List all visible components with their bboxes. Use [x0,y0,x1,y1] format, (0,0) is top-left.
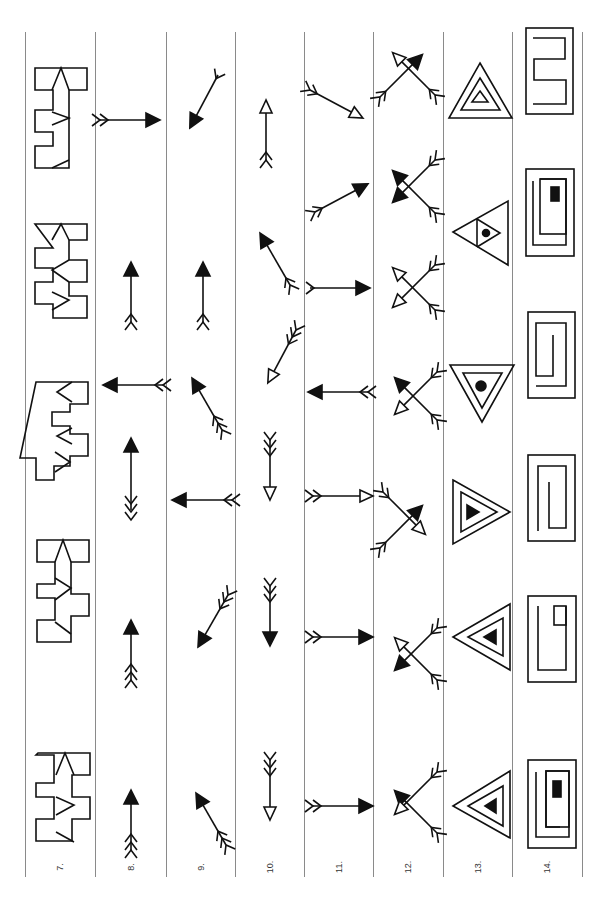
nested-triangle-up [449,63,512,118]
arrow-left [308,385,376,399]
nested-triangle-left-dot [453,201,508,265]
spiral-rectangle [526,28,573,114]
arrow-left [103,378,171,392]
arrow-up-right [305,178,372,222]
arrow-right [305,799,373,813]
block-figure [36,753,90,842]
arrow-right [305,630,373,644]
crossed-arrows [390,362,448,431]
arrow-up-left [186,375,232,441]
crossed-arrows [369,482,429,559]
arrow-up [196,262,210,330]
figure-canvas [0,0,610,903]
arrow-down-left-open [263,320,306,386]
arrow-down-left [192,585,238,651]
arrow-up-open [260,100,272,168]
block-figure [20,382,88,480]
block-figure [37,540,89,642]
crossed-arrows [369,48,445,107]
arrow-up [124,790,138,858]
nested-triangle-right [453,480,510,544]
arrow-up [124,262,138,330]
arrow-down-left [184,68,226,131]
spiral-rectangle-filled [528,760,576,848]
spiral-rectangle-open [528,596,576,682]
arrow-up-left [190,790,236,856]
arrow-left [172,493,240,507]
nested-triangle-down-dot [450,365,514,422]
crossed-arrows [390,762,448,844]
crossed-arrows [388,149,446,223]
arrow-right [92,113,160,127]
block-figure [35,224,87,318]
arrow-up-left [254,230,300,296]
arrow-down-open [264,432,276,500]
spiral-rectangle [528,455,575,541]
test-page: 7. 8. 9. 10. 11. 12. 13. 14. [0,0,610,903]
spiral-rectangle-filled [526,169,574,256]
crossed-arrows [388,255,445,320]
arrow-down-open [264,752,276,820]
spiral-rectangle [528,312,575,398]
nested-triangle-left [453,604,510,670]
arrow-right-open [305,490,373,502]
nested-triangle-left [453,771,510,838]
arrow-up-reverse-fletch [124,438,138,520]
arrow-down [263,578,277,646]
arrow-up [124,620,138,688]
arrow-right [306,281,370,295]
crossed-arrows [390,617,448,690]
arrow-down-right-open [300,81,366,124]
block-figure [35,68,87,168]
